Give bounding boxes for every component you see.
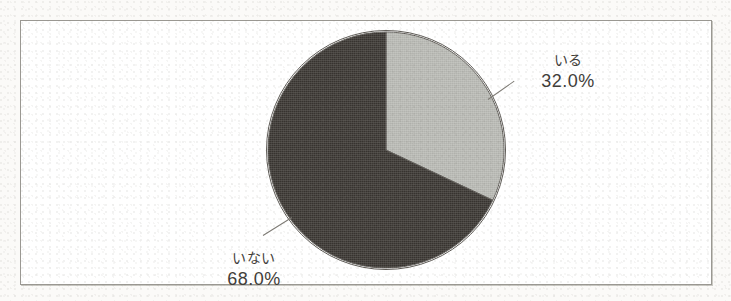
pie-label-iru: いる 32.0% — [519, 52, 617, 92]
pie-circle — [266, 30, 506, 270]
pie-label-inai: いない 68.0% — [205, 250, 303, 290]
pie-label-inai-value: 68.0% — [205, 268, 303, 291]
chart-frame: いる 32.0% いない 68.0% — [20, 20, 712, 285]
pie-label-inai-category: いない — [205, 250, 303, 268]
pie-chart-screenshot: いる 32.0% いない 68.0% — [0, 0, 731, 301]
pie-label-iru-category: いる — [519, 52, 617, 70]
pie-chart — [266, 30, 506, 270]
pie-label-iru-value: 32.0% — [519, 70, 617, 93]
pie-slices — [267, 31, 505, 269]
